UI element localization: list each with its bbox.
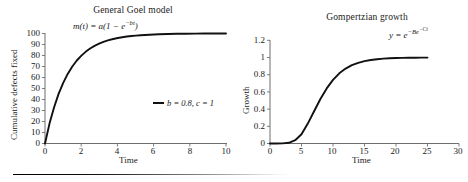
- figure-canvas: General Goel model m(t) = a(1 − e−bt) Cu…: [0, 0, 468, 182]
- chart-panel-general-goel-model: General Goel model m(t) = a(1 − e−bt) Cu…: [0, 0, 234, 182]
- bottom-divider-rule: [13, 174, 291, 175]
- plot-area-right: [234, 0, 468, 182]
- chart-panel-gompertzian-growth: Gompertzian growth y = e−Be−Ct Growth 1.…: [234, 0, 468, 182]
- curve-gompertzian: [270, 58, 428, 144]
- curve-general-goel: [45, 34, 226, 144]
- plot-area-left: [0, 0, 234, 182]
